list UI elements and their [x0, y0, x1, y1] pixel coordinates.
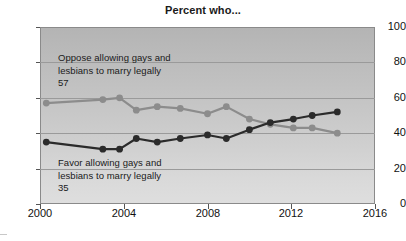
- y-tick-label-20: 20: [372, 163, 406, 174]
- y-tick-label-100: 100: [372, 21, 406, 32]
- data-point: [309, 124, 316, 131]
- data-point: [177, 135, 184, 142]
- y-tick-label-40: 40: [372, 127, 406, 138]
- series-favor: [43, 109, 341, 153]
- data-point: [223, 135, 230, 142]
- data-point: [246, 126, 253, 133]
- decorative-corner-mark: [0, 234, 7, 235]
- data-point: [133, 107, 140, 114]
- data-point: [204, 132, 211, 139]
- data-point: [43, 139, 50, 146]
- data-point: [334, 130, 341, 137]
- data-point: [246, 116, 253, 123]
- x-tick-label-2016: 2016: [355, 207, 395, 219]
- data-point: [99, 146, 106, 153]
- data-point: [133, 135, 140, 142]
- data-point: [334, 109, 341, 116]
- chart-title: Percent who...: [0, 4, 406, 16]
- data-point: [267, 119, 274, 126]
- data-point: [223, 103, 230, 110]
- plot-area: Oppose allowing gays and lesbians to mar…: [40, 27, 375, 204]
- data-point: [177, 105, 184, 112]
- x-tick-label-2004: 2004: [104, 207, 144, 219]
- data-point: [290, 124, 297, 131]
- data-point: [99, 96, 106, 103]
- x-tick-label-2008: 2008: [188, 207, 228, 219]
- x-tick-label-2000: 2000: [20, 207, 60, 219]
- x-tick-label-2012: 2012: [271, 207, 311, 219]
- y-tick-label-60: 60: [372, 92, 406, 103]
- data-point: [154, 139, 161, 146]
- data-point: [116, 146, 123, 153]
- series-layer: [40, 27, 375, 204]
- chart-container: Percent who... 100 80 60 40 20 0 2000 20…: [0, 0, 406, 241]
- data-point: [116, 94, 123, 101]
- data-point: [204, 110, 211, 117]
- data-point: [43, 100, 50, 107]
- data-point: [154, 103, 161, 110]
- data-point: [309, 112, 316, 119]
- series-oppose: [43, 94, 341, 136]
- data-point: [290, 116, 297, 123]
- y-tick-label-80: 80: [372, 56, 406, 67]
